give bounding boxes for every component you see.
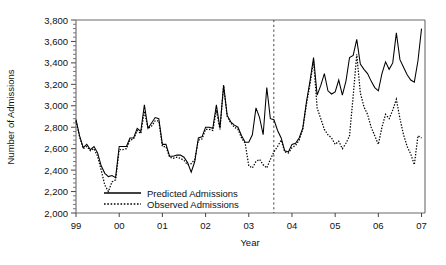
y-axis-title: Number of Admissions [5,69,16,164]
y-tick-label: 3,000 [44,100,68,111]
x-tick-label: 01 [157,220,168,231]
x-tick-label: 05 [330,220,341,231]
y-tick-label: 2,800 [44,122,68,133]
x-tick-label: 03 [243,220,254,231]
y-tick-label: 2,200 [44,186,68,197]
legend-label-predicted: Predicted Admissions [147,188,238,199]
chart-figure: Number of Admissions 2,0002,2002,4002,60… [0,0,446,265]
x-tick-label: 99 [71,220,82,231]
x-tick-label: 02 [200,220,211,231]
y-tick-label: 2,400 [44,165,68,176]
x-tick-label: 00 [114,220,125,231]
legend-label-observed: Observed Admissions [147,199,239,210]
x-tick-label: 07 [416,220,427,231]
y-axis-title-text: Number of Admissions [5,69,16,164]
y-tick-label: 2,000 [44,208,68,219]
x-axis-title-text: Year [240,237,259,248]
y-tick-label: 3,800 [44,15,68,26]
y-tick-label: 2,600 [44,143,68,154]
x-tick-label: 06 [373,220,384,231]
x-tick-label: 04 [287,220,298,231]
admissions-line-chart: Number of Admissions 2,0002,2002,4002,60… [0,0,446,265]
y-tick-label: 3,400 [44,57,68,68]
y-tick-label: 3,200 [44,79,68,90]
y-tick-label: 3,600 [44,36,68,47]
